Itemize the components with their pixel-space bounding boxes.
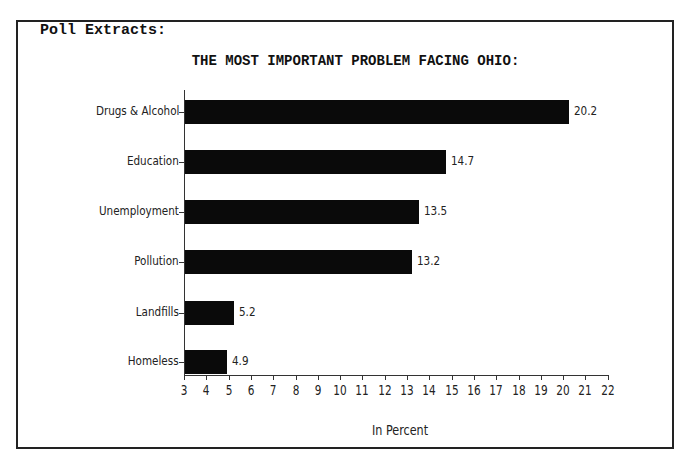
x-tick bbox=[296, 375, 297, 380]
y-tick bbox=[179, 162, 184, 163]
x-tick-label: 6 bbox=[240, 382, 263, 398]
x-tick bbox=[273, 375, 274, 380]
x-tick bbox=[608, 375, 609, 380]
x-tick-label: 12 bbox=[373, 382, 396, 398]
x-tick-label: 9 bbox=[307, 382, 330, 398]
x-tick-label: 21 bbox=[574, 382, 597, 398]
x-tick-label: 8 bbox=[284, 382, 307, 398]
x-tick-label: 16 bbox=[463, 382, 486, 398]
x-tick bbox=[519, 375, 520, 380]
category-label: Pollution bbox=[134, 253, 179, 268]
x-tick-label: 5 bbox=[217, 382, 240, 398]
x-tick-label: 7 bbox=[262, 382, 285, 398]
y-tick bbox=[179, 212, 184, 213]
y-tick bbox=[179, 112, 184, 113]
x-tick bbox=[340, 375, 341, 380]
x-tick bbox=[184, 375, 185, 380]
bar bbox=[185, 100, 569, 124]
x-tick bbox=[496, 375, 497, 380]
x-tick bbox=[585, 375, 586, 380]
x-axis-title: In Percent bbox=[336, 422, 464, 438]
y-tick bbox=[179, 362, 184, 363]
x-tick bbox=[429, 375, 430, 380]
bar bbox=[185, 150, 446, 174]
x-tick-label: 14 bbox=[418, 382, 441, 398]
value-label: 5.2 bbox=[239, 304, 256, 319]
x-tick-label: 19 bbox=[530, 382, 553, 398]
x-tick bbox=[251, 375, 252, 380]
bar bbox=[185, 250, 412, 274]
category-label: Education bbox=[127, 153, 179, 168]
y-tick bbox=[179, 262, 184, 263]
category-label: Unemployment bbox=[99, 203, 179, 218]
category-label: Drugs & Alcohol bbox=[95, 103, 179, 118]
x-tick-label: 20 bbox=[552, 382, 575, 398]
x-axis bbox=[184, 375, 608, 376]
chart-title: THE MOST IMPORTANT PROBLEM FACING OHIO: bbox=[0, 53, 691, 69]
category-label: Homeless bbox=[128, 353, 179, 368]
x-tick bbox=[452, 375, 453, 380]
x-tick bbox=[541, 375, 542, 380]
value-label: 4.9 bbox=[232, 353, 249, 368]
x-tick-label: 18 bbox=[507, 382, 530, 398]
x-tick-label: 13 bbox=[396, 382, 419, 398]
x-tick bbox=[474, 375, 475, 380]
x-tick-label: 22 bbox=[596, 382, 619, 398]
x-tick bbox=[318, 375, 319, 380]
x-tick-label: 4 bbox=[195, 382, 218, 398]
bar bbox=[185, 350, 227, 374]
x-tick-label: 15 bbox=[440, 382, 463, 398]
x-tick bbox=[206, 375, 207, 380]
bar bbox=[185, 301, 234, 325]
x-tick-label: 17 bbox=[485, 382, 508, 398]
y-axis bbox=[184, 90, 185, 375]
bar bbox=[185, 200, 419, 224]
x-tick bbox=[229, 375, 230, 380]
x-tick-label: 10 bbox=[329, 382, 352, 398]
value-label: 14.7 bbox=[451, 153, 474, 168]
header-label: Poll Extracts: bbox=[40, 22, 166, 39]
x-tick-label: 3 bbox=[173, 382, 196, 398]
value-label: 13.2 bbox=[417, 253, 440, 268]
category-label: Landfills bbox=[136, 304, 179, 319]
x-tick bbox=[407, 375, 408, 380]
y-tick bbox=[179, 313, 184, 314]
x-tick bbox=[385, 375, 386, 380]
x-tick bbox=[362, 375, 363, 380]
x-tick-label: 11 bbox=[351, 382, 374, 398]
x-tick bbox=[563, 375, 564, 380]
value-label: 20.2 bbox=[574, 103, 597, 118]
value-label: 13.5 bbox=[424, 203, 447, 218]
